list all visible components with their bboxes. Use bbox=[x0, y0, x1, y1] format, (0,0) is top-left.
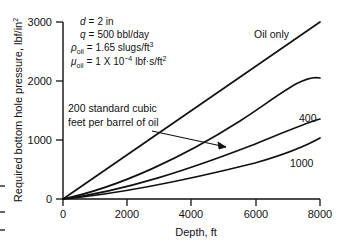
param-viscosity-equals: = bbox=[87, 56, 93, 67]
y-axis-title-text: Required bottom hole pressure, lbf/in bbox=[12, 22, 24, 202]
xtick-label-4000: 4000 bbox=[179, 208, 203, 220]
curve-200-scf bbox=[63, 78, 320, 199]
param-density-subscript: oil bbox=[77, 48, 84, 55]
param-density-equals: = bbox=[87, 42, 93, 53]
annotation-line-1: 200 standard cubic bbox=[68, 102, 157, 114]
annotation-arrow-line bbox=[152, 131, 226, 147]
param-viscosity-exponent: −4 bbox=[124, 55, 132, 62]
param-flowrate: q=500 bbl/day bbox=[80, 29, 149, 40]
param-flowrate-value: 500 bbl/day bbox=[97, 29, 149, 40]
curve-1000-scf bbox=[63, 138, 320, 199]
curve-400-scf bbox=[63, 119, 320, 199]
param-density-value: 1.65 slugs/ft bbox=[96, 42, 150, 53]
xtick-label-6000: 6000 bbox=[244, 208, 268, 220]
annotation-line-2: feet per barrel of oil bbox=[68, 116, 158, 128]
param-diameter: d=2 in bbox=[80, 16, 114, 27]
figure-container: 3000 2000 1000 0 0 2000 4000 6000 8000 D… bbox=[0, 0, 337, 242]
param-density-exponent: 3 bbox=[150, 41, 154, 48]
param-viscosity-subscript: oil bbox=[76, 62, 83, 69]
xtick-label-8000: 8000 bbox=[308, 208, 332, 220]
chart-canvas: 3000 2000 1000 0 0 2000 4000 6000 8000 D… bbox=[0, 0, 337, 242]
ytick-label-0: 0 bbox=[46, 193, 52, 205]
param-diameter-symbol: d bbox=[80, 16, 86, 27]
x-axis-title: Depth, ft bbox=[175, 226, 217, 238]
ytick-label-3000: 3000 bbox=[28, 16, 52, 28]
param-diameter-value: 2 in bbox=[97, 16, 113, 27]
y-axis-title: Required bottom hole pressure, lbf/in2 bbox=[12, 18, 24, 202]
param-viscosity-value-tail: lbf·s/ft bbox=[135, 56, 162, 67]
curve-label-400: 400 bbox=[299, 112, 317, 124]
param-viscosity-tail-exponent: 2 bbox=[162, 55, 166, 62]
param-flowrate-equals: = bbox=[89, 29, 95, 40]
xtick-label-2000: 2000 bbox=[115, 208, 139, 220]
param-viscosity-value: 1 X 10 bbox=[95, 56, 124, 67]
ytick-label-1000: 1000 bbox=[28, 134, 52, 146]
xtick-label-0: 0 bbox=[60, 208, 66, 220]
annotation-arrow-head bbox=[218, 142, 226, 149]
curve-label-oil-only: Oil only bbox=[254, 28, 290, 40]
y-axis-title-exponent: 2 bbox=[12, 18, 19, 22]
curve-label-1000: 1000 bbox=[290, 157, 314, 169]
param-flowrate-symbol: q bbox=[80, 29, 86, 40]
param-viscosity: μoil=1 X 10−4lbf·s/ft2 bbox=[70, 55, 166, 69]
ytick-label-2000: 2000 bbox=[28, 75, 52, 87]
param-density: ρoil=1.65 slugs/ft3 bbox=[70, 41, 154, 55]
param-diameter-equals: = bbox=[89, 16, 95, 27]
